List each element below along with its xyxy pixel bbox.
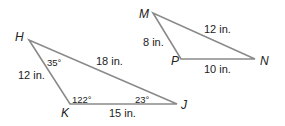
vertex-label-h: H	[15, 31, 24, 43]
side-label-hj: 18 in.	[96, 56, 123, 67]
side-label-hk: 12 in.	[18, 70, 45, 81]
vertex-label-n: N	[260, 55, 269, 67]
vertex-label-j: J	[181, 99, 187, 111]
vertex-label-m: M	[139, 8, 149, 20]
side-label-pn: 10 in.	[204, 64, 231, 75]
side-label-kj: 15 in.	[109, 108, 136, 119]
angle-label-h: 35°	[47, 58, 61, 68]
angle-label-j: 23°	[135, 95, 149, 105]
vertex-label-p: P	[171, 55, 179, 67]
side-label-mn: 12 in.	[204, 24, 231, 35]
similar-triangles-diagram: H K J 12 in. 18 in. 15 in. 35° 122° 23° …	[0, 0, 285, 126]
triangle-mpn	[153, 13, 255, 59]
triangle-hkj	[29, 40, 177, 104]
side-label-mp: 8 in.	[143, 37, 164, 48]
angle-label-k: 122°	[72, 95, 92, 105]
vertex-label-k: K	[61, 107, 69, 119]
